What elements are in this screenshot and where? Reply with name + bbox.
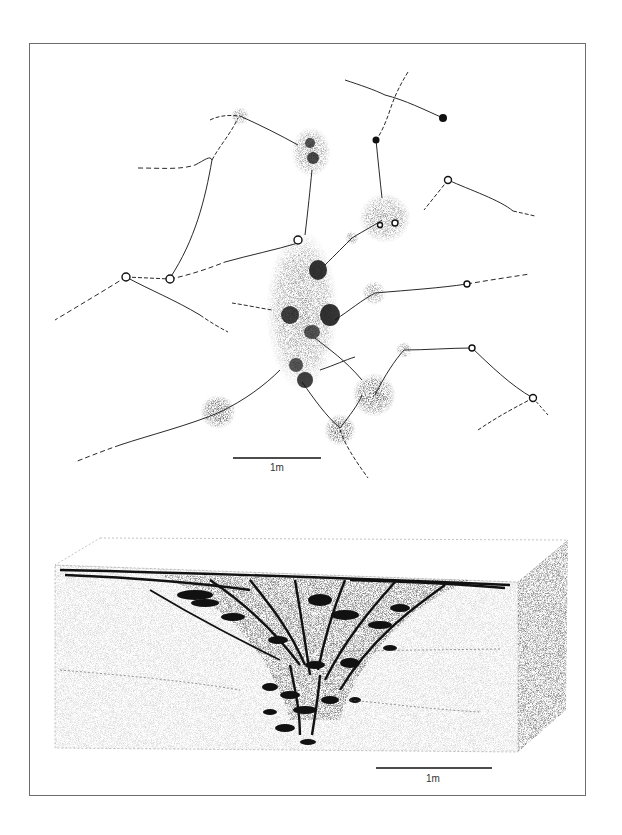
block-scale-label: 1m xyxy=(426,773,440,784)
plan-scale-label: 1m xyxy=(270,462,284,473)
plan-view-illustration xyxy=(0,0,622,835)
solid-nodes xyxy=(373,114,448,144)
nest-chambers xyxy=(200,107,412,446)
block-diagram-illustration xyxy=(55,538,568,752)
